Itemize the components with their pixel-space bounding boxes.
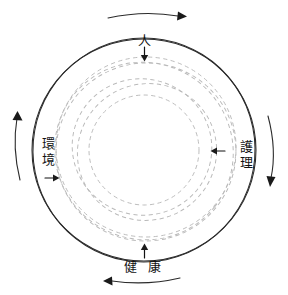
person-inward-arrow [141,47,148,62]
dashed-circle-group [19,26,269,276]
concept-diagram: 人 環 境 護 理 健 康 [0,0,288,295]
left-rotation-arrow [13,111,23,180]
dashed-circle-mid-2 [54,60,240,245]
right-rotation-arrow [267,116,276,187]
dashed-circle-inner [89,95,199,205]
health-inward-arrow [141,244,148,259]
label-nursing-char-1: 護 [240,139,253,155]
label-environment: 環 境 [42,136,55,168]
solid-circle-1 [32,39,256,261]
dashed-circle-outer-1 [56,57,236,237]
label-health: 健 康 [124,259,163,275]
dashed-circle-outer-3 [38,45,253,259]
label-environment-char-1: 環 [42,136,55,152]
top-rotation-arrow [108,12,187,21]
nursing-inward-arrow [211,147,226,154]
label-person: 人 [138,33,151,49]
label-nursing: 護 理 [240,139,253,171]
bottom-rotation-arrow [103,277,180,286]
environment-inward-arrow [45,174,60,181]
label-nursing-char-2: 理 [240,155,253,171]
label-environment-char-2: 境 [42,152,55,168]
